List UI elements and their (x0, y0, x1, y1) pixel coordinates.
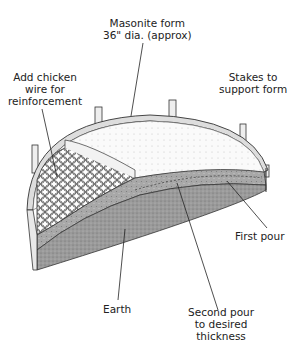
label-stakes: Stakes to support form (219, 71, 287, 95)
label-chicken-wire: Add chicken wire for reinforcement (8, 71, 82, 107)
label-first-pour: First pour (235, 230, 285, 242)
label-second-pour: Second pour to desired thickness (188, 306, 254, 342)
label-masonite-form: Masonite form 36" dia. (approx) (103, 17, 192, 41)
leader-masonite (131, 43, 143, 116)
label-earth: Earth (103, 303, 131, 315)
stake (169, 100, 176, 118)
slab-cross-section-illustration (0, 0, 301, 361)
